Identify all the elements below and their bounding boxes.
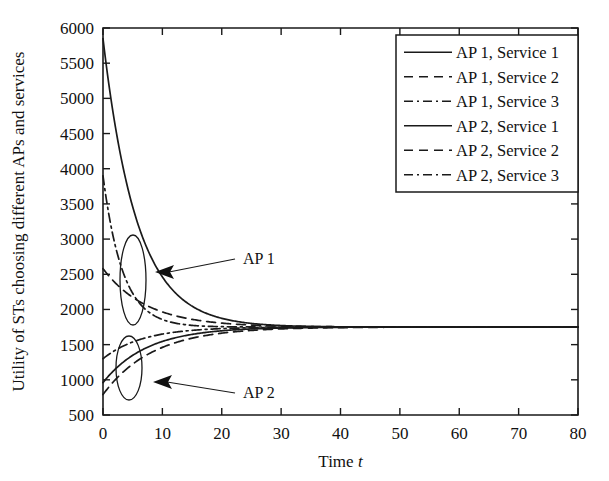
x-tick-label: 40 (332, 424, 349, 443)
y-tick-label: 2000 (60, 300, 94, 319)
annotation-leader-2 (167, 382, 235, 393)
legend-label-5[interactable]: AP 2, Service 2 (456, 141, 559, 160)
x-tick-label: 10 (154, 424, 171, 443)
annotation-label-ap-2: AP 2 (243, 384, 275, 401)
y-tick-label: 1500 (60, 336, 94, 355)
x-tick-label: 60 (451, 424, 468, 443)
legend-label-1[interactable]: AP 1, Service 1 (456, 43, 559, 62)
y-tick-label: 5000 (60, 89, 94, 108)
y-tick-label: 1000 (60, 371, 94, 390)
x-axis-title: Time t (318, 452, 364, 471)
x-tick-label: 30 (273, 424, 290, 443)
y-tick-label: 4500 (60, 125, 94, 144)
y-tick-label: 3000 (60, 230, 94, 249)
y-axis-title: Utility of STs choosing different APs an… (9, 52, 28, 392)
x-tick-label: 50 (391, 424, 408, 443)
chart-svg: 5001000150020002500300035004000450050005… (0, 0, 609, 481)
y-tick-label: 3500 (60, 195, 94, 214)
legend-label-3[interactable]: AP 1, Service 3 (456, 92, 559, 111)
series-line-2 (103, 269, 578, 327)
x-tick-label: 0 (99, 424, 108, 443)
x-tick-label: 80 (570, 424, 587, 443)
x-tick-label: 70 (510, 424, 527, 443)
y-tick-label: 500 (69, 406, 95, 425)
y-tick-label: 5500 (60, 54, 94, 73)
legend-label-2[interactable]: AP 1, Service 2 (456, 68, 559, 87)
figure-container: 5001000150020002500300035004000450050005… (0, 0, 609, 481)
legend[interactable]: AP 1, Service 1AP 1, Service 2AP 1, Serv… (396, 35, 578, 192)
annotation-label-ap-1: AP 1 (243, 250, 275, 267)
series-line-4 (103, 327, 578, 383)
annotation-ellipse-1 (120, 235, 146, 325)
x-tick-label: 20 (213, 424, 230, 443)
legend-label-6[interactable]: AP 2, Service 3 (456, 166, 559, 185)
y-tick-label: 2500 (60, 265, 94, 284)
y-tick-label: 4000 (60, 160, 94, 179)
y-axis-tick-labels: 5001000150020002500300035004000450050005… (60, 19, 94, 425)
y-tick-label: 6000 (60, 19, 94, 38)
annotation-leader-1 (169, 259, 235, 272)
legend-label-4[interactable]: AP 2, Service 1 (456, 117, 559, 136)
chart-annotations: AP 1AP 2 (116, 235, 275, 401)
x-axis-tick-labels: 01020304050607080 (99, 424, 587, 443)
series-line-3 (103, 176, 578, 327)
